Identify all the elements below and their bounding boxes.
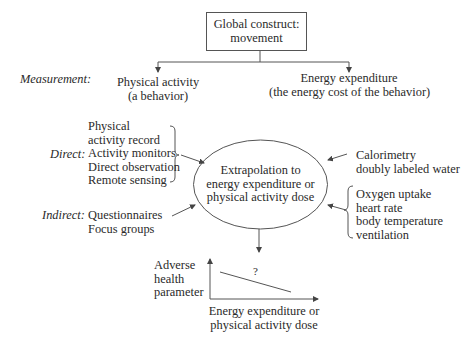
list-item: doubly labeled water: [356, 163, 460, 177]
global-construct-box: Global construct: movement: [206, 12, 307, 51]
chart-question-mark: ?: [253, 265, 258, 279]
list-item: Remote sensing: [88, 174, 180, 188]
indirect-left-list: Questionnaires Focus groups: [88, 209, 162, 236]
physical-activity-title: Physical activity: [98, 76, 218, 90]
global-construct-line1: Global construct:: [214, 18, 300, 32]
direct-label: Direct:: [50, 148, 85, 162]
list-item: Calorimetry: [356, 149, 460, 163]
energy-expenditure-node: Energy expenditure (the energy cost of t…: [269, 72, 429, 99]
center-ellipse: Extrapolation to energy expenditure or p…: [193, 140, 328, 229]
indirect-label: Indirect:: [42, 209, 85, 223]
x-label-line: physical activity dose: [199, 319, 329, 333]
y-label-line: Adverse: [154, 259, 204, 273]
list-item: Physical: [88, 120, 180, 134]
arrow-direct-right: [328, 154, 347, 160]
right-brace: [344, 186, 353, 238]
list-item: Activity monitors: [88, 147, 180, 161]
ellipse-line2: energy expenditure or: [206, 178, 315, 192]
y-label-line: parameter: [154, 286, 204, 300]
list-item: heart rate: [356, 202, 443, 216]
list-item: body temperature: [356, 215, 443, 229]
chart-x-label: Energy expenditure or physical activity …: [199, 305, 329, 332]
arrow-indirect-right: [328, 205, 346, 210]
list-item: ventilation: [356, 229, 443, 243]
list-item: Oxygen uptake: [356, 188, 443, 202]
list-item: activity record: [88, 134, 180, 148]
list-item: Questionnaires: [88, 209, 162, 223]
list-item: Direct observation: [88, 161, 180, 175]
direct-right-list: Calorimetry doubly labeled water: [356, 149, 460, 176]
y-label-line: health: [154, 273, 204, 287]
measurement-label: Measurement:: [20, 73, 91, 87]
arrow-indirect-left: [172, 205, 195, 216]
indirect-right-list: Oxygen uptake heart rate body temperatur…: [356, 188, 443, 242]
physical-activity-node: Physical activity (a behavior): [98, 76, 218, 103]
chart-y-label: Adverse health parameter: [154, 259, 204, 300]
direct-left-list: Physical activity record Activity monito…: [88, 120, 180, 188]
energy-expenditure-subtitle: (the energy cost of the behavior): [269, 86, 429, 100]
physical-activity-subtitle: (a behavior): [98, 90, 218, 104]
x-label-line: Energy expenditure or: [199, 305, 329, 319]
ellipse-line3: physical activity dose: [206, 191, 315, 205]
global-construct-line2: movement: [214, 32, 300, 46]
list-item: Focus groups: [88, 223, 162, 237]
energy-expenditure-title: Energy expenditure: [269, 72, 429, 86]
ellipse-line1: Extrapolation to: [206, 164, 315, 178]
diagram-canvas: Global construct: movement Measurement: …: [0, 0, 466, 344]
